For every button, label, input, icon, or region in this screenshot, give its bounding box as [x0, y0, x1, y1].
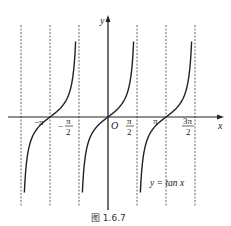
svg-text:2: 2: [127, 127, 132, 137]
y-axis: [106, 15, 111, 210]
y-axis-label: y: [99, 15, 105, 26]
y-axis-arrow-icon: [106, 15, 111, 22]
tick-label-half-pi: π 2: [126, 116, 134, 137]
tick-label-three-half-pi: 3π 2: [182, 116, 194, 137]
svg-text:2: 2: [66, 127, 71, 137]
x-axis-label: x: [217, 120, 223, 131]
svg-text:π: π: [66, 116, 71, 126]
function-label: y = tan x: [149, 178, 185, 188]
svg-text:π: π: [127, 116, 132, 126]
figure-caption: 图 1.6.7: [91, 213, 126, 223]
svg-text:3π: 3π: [183, 116, 193, 126]
tick-label-pi: π: [153, 116, 158, 126]
tangent-graph: y x O −π − π 2 π 2 π 3π 2 y = tan x 图 1.…: [0, 0, 231, 226]
origin-label: O: [111, 120, 118, 131]
x-axis-arrow-icon: [217, 115, 224, 120]
tick-label-neg-half-pi: − π 2: [58, 116, 73, 137]
svg-text:−: −: [58, 121, 63, 131]
tick-label-neg-pi: −π: [34, 117, 44, 127]
svg-text:2: 2: [186, 127, 191, 137]
